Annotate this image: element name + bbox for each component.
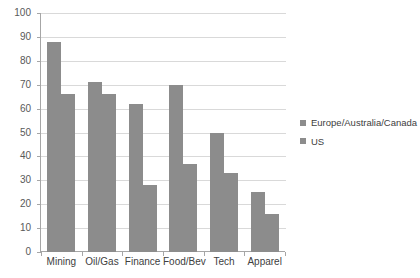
bar	[143, 185, 157, 252]
x-axis-tick	[285, 252, 286, 256]
y-axis-tick-label: 80	[0, 56, 31, 66]
bar	[61, 94, 75, 252]
bar-chart: 0102030405060708090100 MiningOil/GasFina…	[0, 0, 420, 278]
bars-layer	[41, 13, 285, 252]
x-axis: MiningOil/GasFinanceFood/BevTechApparel	[40, 252, 286, 278]
x-axis-tick	[82, 252, 83, 256]
bar	[183, 164, 197, 252]
x-axis-tick	[122, 252, 123, 256]
legend-item[interactable]: Europe/Australia/Canada	[300, 118, 418, 128]
y-axis-tick-label: 50	[0, 128, 31, 138]
y-axis-tick-label: 90	[0, 32, 31, 42]
x-axis-category-label: Mining	[41, 257, 82, 267]
bar	[265, 214, 279, 252]
bar	[88, 82, 102, 252]
chart-legend: Europe/Australia/CanadaUS	[300, 118, 418, 155]
bar	[47, 42, 61, 252]
legend-label: Europe/Australia/Canada	[311, 118, 417, 128]
bar	[251, 192, 265, 252]
x-axis-category-label: Tech	[204, 257, 245, 267]
legend-swatch-icon	[300, 120, 306, 126]
y-axis-tick-label: 70	[0, 80, 31, 90]
y-axis-tick-label: 60	[0, 104, 31, 114]
x-axis-tick	[41, 252, 42, 256]
x-axis-category-label: Finance	[122, 257, 163, 267]
bar	[102, 94, 116, 252]
bar	[169, 85, 183, 252]
legend-swatch-icon	[300, 138, 306, 144]
y-axis-tick-label: 100	[0, 8, 31, 18]
bar	[210, 133, 224, 253]
y-axis-tick-label: 10	[0, 223, 31, 233]
x-axis-category-label: Oil/Gas	[82, 257, 123, 267]
legend-item[interactable]: US	[300, 137, 418, 147]
y-axis-tick-label: 40	[0, 151, 31, 161]
x-axis-category-label: Food/Bev	[163, 257, 204, 267]
y-axis-tick-label: 30	[0, 175, 31, 185]
y-axis-tick-label: 20	[0, 199, 31, 209]
bar	[129, 104, 143, 252]
x-axis-tick	[244, 252, 245, 256]
x-axis-category-label: Apparel	[244, 257, 285, 267]
y-axis-tick-label: 0	[0, 247, 31, 257]
legend-label: US	[311, 137, 324, 147]
bar	[224, 173, 238, 252]
